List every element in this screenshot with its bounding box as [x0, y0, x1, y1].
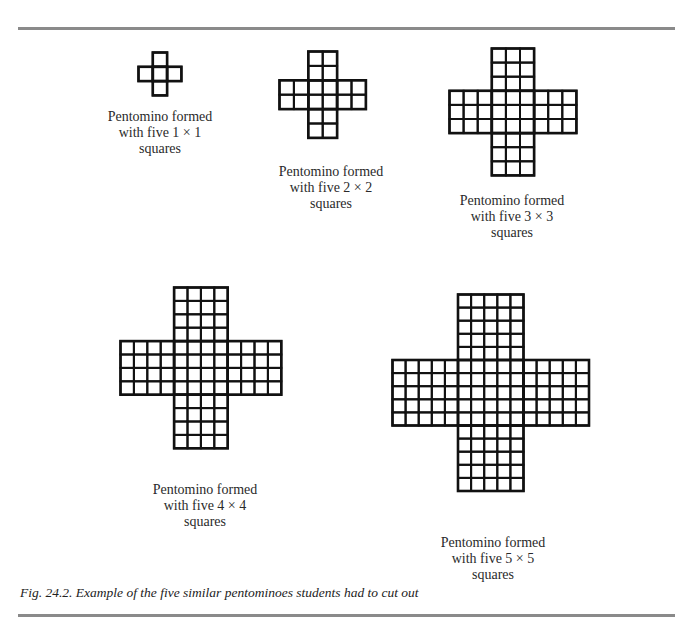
caption-line: with five 5 × 5 — [413, 551, 573, 567]
pentomino-1x1 — [138, 52, 181, 95]
pentomino-caption: Pentomino formedwith five 4 × 4squares — [125, 482, 285, 530]
top-rule — [18, 27, 675, 30]
caption-line: squares — [125, 514, 285, 530]
caption-line: with five 4 × 4 — [125, 498, 285, 514]
pentomino-grid — [449, 48, 576, 175]
caption-line: squares — [80, 141, 240, 157]
caption-line: with five 2 × 2 — [251, 180, 411, 196]
caption-line: squares — [251, 196, 411, 212]
pentomino-caption: Pentomino formedwith five 3 × 3squares — [432, 193, 592, 241]
pentomino-grid — [120, 287, 281, 448]
caption-line: with five 1 × 1 — [80, 125, 240, 141]
bottom-rule — [18, 614, 675, 617]
caption-line: with five 3 × 3 — [432, 209, 592, 225]
caption-line: Pentomino formed — [251, 164, 411, 180]
pentomino-caption: Pentomino formedwith five 1 × 1squares — [80, 109, 240, 157]
caption-line: Pentomino formed — [80, 109, 240, 125]
pentomino-grid — [279, 51, 365, 137]
caption-line: Pentomino formed — [125, 482, 285, 498]
pentomino-caption: Pentomino formedwith five 2 × 2squares — [251, 164, 411, 212]
figure-caption: Fig. 24.2. Example of the five similar p… — [20, 585, 419, 601]
caption-line: squares — [413, 567, 573, 583]
pentomino-5x5 — [392, 294, 589, 491]
pentomino-grid — [392, 294, 589, 491]
pentomino-caption: Pentomino formedwith five 5 × 5squares — [413, 535, 573, 583]
pentomino-grid — [138, 52, 181, 95]
pentomino-2x2 — [279, 51, 365, 137]
pentomino-4x4 — [120, 287, 281, 448]
caption-line: Pentomino formed — [432, 193, 592, 209]
caption-line: Pentomino formed — [413, 535, 573, 551]
pentomino-3x3 — [449, 48, 576, 175]
caption-line: squares — [432, 225, 592, 241]
